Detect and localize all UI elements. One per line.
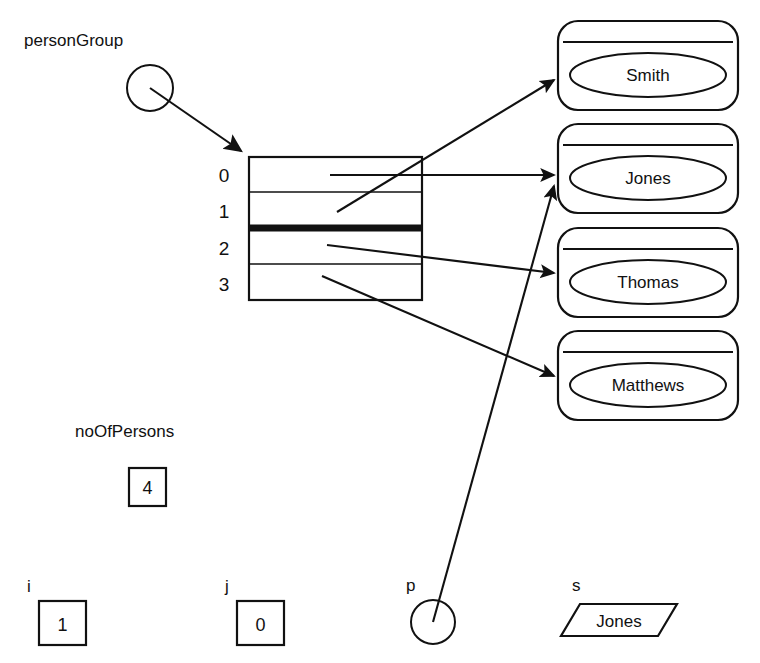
variable-i-label: i	[27, 577, 31, 596]
variable-j-label: j	[224, 577, 229, 596]
object-name-jones: Jones	[625, 169, 670, 188]
array-index-2: 2	[219, 238, 230, 259]
object-node-thomas: Thomas	[558, 228, 738, 317]
object-node-smith: Smith	[558, 21, 738, 110]
object-node-jones: Jones	[558, 124, 738, 213]
connector-p-to-jones	[433, 186, 554, 622]
variable-s-label: s	[572, 576, 581, 595]
object-name-thomas: Thomas	[617, 273, 678, 292]
object-name-matthews: Matthews	[612, 376, 685, 395]
variable-j-value: 0	[255, 615, 265, 635]
variable-i-value: 1	[57, 615, 67, 635]
object-name-smith: Smith	[626, 66, 669, 85]
object-node-matthews: Matthews	[558, 331, 738, 420]
no-of-persons-value: 4	[142, 478, 152, 498]
array-index-0: 0	[219, 165, 230, 186]
variable-p-label: p	[406, 576, 415, 595]
connector-cell3-to-matthews	[322, 276, 554, 376]
variable-s-value: Jones	[596, 612, 641, 631]
person-group-label: personGroup	[24, 31, 123, 50]
no-of-persons-label: noOfPersons	[75, 422, 174, 441]
array-index-1: 1	[219, 201, 230, 222]
array-index-3: 3	[219, 274, 230, 295]
diagram-svg: personGroup 0 1 2 3 Smith Jones	[0, 0, 760, 663]
person-group-pointer-arrow	[150, 88, 241, 151]
diagram-canvas: personGroup 0 1 2 3 Smith Jones	[0, 0, 760, 663]
connector-cell1-to-smith	[337, 80, 554, 212]
